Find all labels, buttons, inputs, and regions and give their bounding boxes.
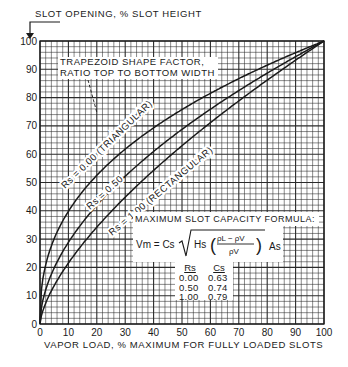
x-tick-label: 0 [37,327,43,338]
y-axis-title: SLOT OPENING, % SLOT HEIGHT [35,8,202,19]
y-tick-label: 50 [26,177,38,188]
y-tick-label: 70 [26,120,38,131]
x-tick-label: 50 [176,327,188,338]
x-tick-label: 90 [290,327,302,338]
shape-factor-line-1: TRAPEZOID SHAPE FACTOR, [60,57,218,68]
y-tick-label: 40 [26,205,38,216]
shape-factor-line-2: RATIO TOP TO BOTTOM WIDTH [60,68,218,79]
y-tick-label: 90 [26,64,38,75]
x-tick-label: 10 [63,327,75,338]
x-tick-label: 80 [262,327,274,338]
x-tick-label: 60 [205,327,217,338]
curve-label: Rs = 0.50 [84,173,125,212]
shape-factor-annotation: TRAPEZOID SHAPE FACTOR, RATIO TOP TO BOT… [58,57,218,79]
formula-title: MAXIMUM SLOT CAPACITY FORMULA: [133,212,319,226]
curve-label: Rs = 0.00 (TRIANGULAR) [59,98,154,191]
formula-lhs: Vm = Cs [136,239,175,250]
y-tick-label: 60 [26,149,38,160]
shape-coefficient-table: Rs 0.00 0.50 1.00 Cs 0.63 0.74 0.79 [175,262,233,300]
formula-numerator: ρL − ρV [217,234,245,243]
y-tick-label: 30 [26,234,38,245]
formula-hs: Hs [194,239,206,250]
capacity-formula: Vm = Cs Hs ( ρL − ρV ρV ) As [133,226,283,262]
leader-line [88,80,97,113]
formula-as: As [269,241,281,252]
x-tick-label: 20 [91,327,103,338]
formula-denominator: ρV [229,247,240,256]
left-paren: ( [210,235,216,255]
table-cell: 0.79 [208,292,230,302]
x-tick-label: 30 [120,327,132,338]
y-axis-arrow-icon [26,22,60,39]
y-tick-label: 10 [26,290,38,301]
x-axis-title: VAPOR LOAD, % MAXIMUM FOR FULLY LOADED S… [44,339,323,350]
x-tick-label: 40 [148,327,160,338]
x-tick-label: 70 [233,327,245,338]
table-cell: 1.00 [179,292,201,302]
right-paren: ) [256,235,262,255]
y-tick-label: 80 [26,92,38,103]
x-tick-label: 100 [316,327,333,338]
y-tick-label: 20 [26,262,38,273]
